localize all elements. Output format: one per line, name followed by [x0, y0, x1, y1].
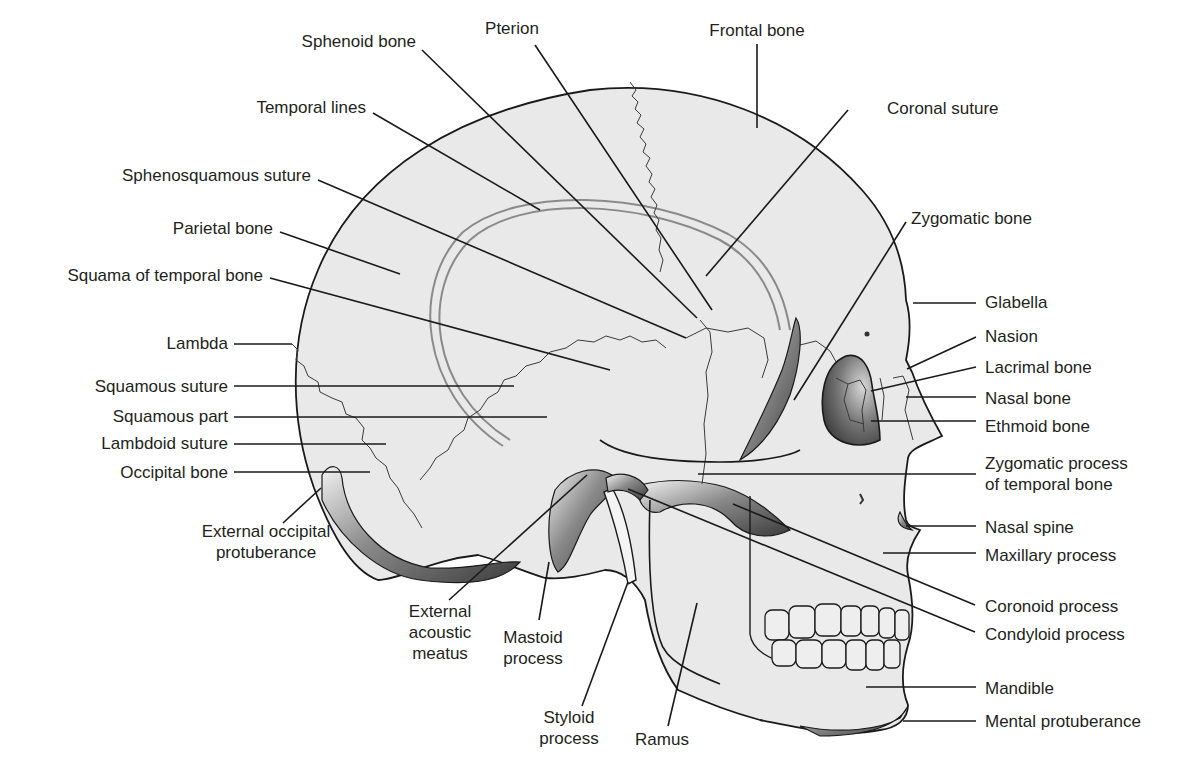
label-pterion: Pterion	[485, 19, 539, 38]
lower-teeth	[772, 640, 900, 670]
label-line: Nasal spine	[985, 518, 1074, 537]
label-line: Pterion	[485, 19, 539, 38]
label-line: protuberance	[216, 543, 316, 562]
label-line: Occipital bone	[120, 463, 228, 482]
label-parietal-bone: Parietal bone	[173, 219, 273, 238]
label-line: Temporal lines	[256, 98, 366, 117]
label-line: Zygomatic process	[985, 454, 1128, 473]
label-line: process	[503, 649, 563, 668]
label-line: Squama of temporal bone	[67, 266, 263, 285]
label-line: Squamous part	[113, 407, 229, 426]
label-styloid-process: Styloidprocess	[539, 708, 599, 748]
label-zygomatic-process: Zygomatic processof temporal bone	[985, 454, 1128, 494]
label-line: Mandible	[985, 679, 1054, 698]
label-line: External occipital	[202, 522, 331, 541]
label-line: Ethmoid bone	[985, 417, 1090, 436]
label-squama-temporal: Squama of temporal bone	[67, 266, 263, 285]
label-line: Maxillary process	[985, 546, 1116, 565]
label-mastoid-process: Mastoidprocess	[503, 628, 563, 668]
label-nasion: Nasion	[985, 327, 1038, 346]
label-line: Styloid	[543, 708, 594, 727]
label-line: Mental protuberance	[985, 712, 1141, 731]
label-frontal-bone: Frontal bone	[709, 21, 804, 40]
label-glabella: Glabella	[985, 293, 1048, 312]
label-line: Zygomatic bone	[911, 209, 1032, 228]
styloid-process-leader-line	[582, 582, 628, 706]
label-lambdoid-suture: Lambdoid suture	[101, 434, 228, 453]
label-coronoid-process: Coronoid process	[985, 597, 1118, 616]
label-temporal-lines: Temporal lines	[256, 98, 366, 117]
label-lacrimal-bone: Lacrimal bone	[985, 358, 1092, 377]
label-line: Lambda	[167, 334, 229, 353]
label-ramus: Ramus	[635, 730, 689, 749]
label-sphenoid-bone: Sphenoid bone	[302, 32, 416, 51]
label-line: Mastoid	[503, 628, 563, 647]
label-occipital-bone: Occipital bone	[120, 463, 228, 482]
label-line: Frontal bone	[709, 21, 804, 40]
label-line: Sphenosquamous suture	[122, 166, 311, 185]
label-line: Sphenoid bone	[302, 32, 416, 51]
label-line: Coronoid process	[985, 597, 1118, 616]
label-nasal-spine: Nasal spine	[985, 518, 1074, 537]
label-line: acoustic	[409, 623, 472, 642]
label-squamous-part: Squamous part	[113, 407, 229, 426]
label-ethmoid-bone: Ethmoid bone	[985, 417, 1090, 436]
label-squamous-suture: Squamous suture	[95, 377, 228, 396]
label-sphenosquamous-suture: Sphenosquamous suture	[122, 166, 311, 185]
label-line: Lacrimal bone	[985, 358, 1092, 377]
label-line: Squamous suture	[95, 377, 228, 396]
label-line: Glabella	[985, 293, 1048, 312]
label-mental-protuberance: Mental protuberance	[985, 712, 1141, 731]
label-maxillary-process: Maxillary process	[985, 546, 1116, 565]
label-line: Parietal bone	[173, 219, 273, 238]
label-mandible: Mandible	[985, 679, 1054, 698]
label-condyloid-process: Condyloid process	[985, 625, 1125, 644]
label-line: External	[409, 602, 471, 621]
skull-diagram: Frontal bonePterionSphenoid boneCoronal …	[0, 0, 1187, 759]
external-occipital-protuberance-leader-line	[283, 488, 321, 523]
label-line: Lambdoid suture	[101, 434, 228, 453]
label-line: Ramus	[635, 730, 689, 749]
skull-artwork	[292, 82, 942, 736]
label-external-acoustic-meatus: Externalacousticmeatus	[409, 602, 472, 663]
label-line: Nasal bone	[985, 389, 1071, 408]
label-line: of temporal bone	[985, 475, 1113, 494]
label-nasal-bone: Nasal bone	[985, 389, 1071, 408]
label-lambda: Lambda	[167, 334, 229, 353]
label-line: meatus	[412, 644, 468, 663]
label-external-occipital-protuberance: External occipitalprotuberance	[202, 522, 331, 562]
label-line: Nasion	[985, 327, 1038, 346]
nasion-leader-line	[907, 337, 976, 369]
label-line: process	[539, 729, 599, 748]
label-zygomatic-bone: Zygomatic bone	[911, 209, 1032, 228]
label-coronal-suture: Coronal suture	[887, 99, 999, 118]
supraorbital-foramen	[865, 332, 870, 337]
label-line: Condyloid process	[985, 625, 1125, 644]
label-line: Coronal suture	[887, 99, 999, 118]
